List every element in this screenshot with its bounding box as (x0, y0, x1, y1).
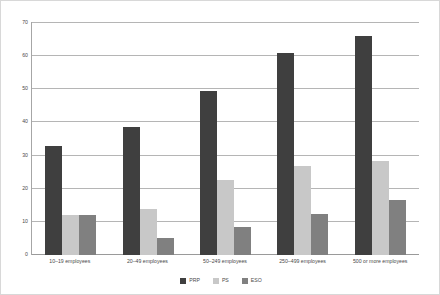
bar-ps (140, 209, 157, 255)
legend-label: ESO (251, 278, 262, 283)
bar-ps (62, 215, 79, 255)
y-axis-tick-label: 30 (22, 153, 28, 158)
x-axis-category-label: 50–249 employees (186, 259, 264, 264)
bar-prp (45, 146, 62, 255)
bar-ps (294, 166, 311, 255)
legend-item-eso[interactable]: ESO (242, 278, 262, 284)
bar-group (109, 23, 186, 255)
bar-prp (200, 91, 217, 255)
legend-item-ps[interactable]: PS (213, 278, 229, 284)
bar-group (264, 23, 341, 255)
legend-item-prp[interactable]: PRP (180, 278, 200, 284)
bar-group (342, 23, 419, 255)
bar-eso (79, 215, 96, 255)
bar-group (187, 23, 264, 255)
chart-figure: 010203040506070 10–19 employees20–49 emp… (0, 0, 440, 295)
bar-eso (389, 200, 406, 255)
x-axis-category-label: 500 or more employees (341, 259, 419, 264)
legend-swatch-icon (213, 278, 219, 284)
bar-prp (355, 36, 372, 255)
y-axis-tick-label: 10 (22, 219, 28, 224)
legend-swatch-icon (180, 278, 186, 284)
x-axis-category-label: 10–19 employees (31, 259, 109, 264)
legend-label: PRP (189, 278, 200, 283)
legend-swatch-icon (242, 278, 248, 284)
y-axis-tick-label: 70 (22, 20, 28, 25)
legend-label: PS (222, 278, 229, 283)
chart-legend: PRPPSESO (1, 278, 440, 284)
bar-group (32, 23, 109, 255)
bar-eso (157, 238, 174, 255)
y-axis-tick-label: 0 (25, 252, 28, 257)
bar-eso (234, 227, 251, 255)
category-axis: 10–19 employees20–49 employees50–249 emp… (31, 259, 419, 264)
y-axis-tick-label: 50 (22, 87, 28, 92)
y-axis-tick-label: 60 (22, 54, 28, 59)
plot-area: 010203040506070 (31, 22, 419, 255)
bar-eso (311, 214, 328, 255)
y-axis-tick-label: 20 (22, 186, 28, 191)
bars-layer (32, 23, 419, 255)
y-axis-tick-label: 40 (22, 120, 28, 125)
bar-prp (277, 53, 294, 255)
bar-ps (217, 180, 234, 255)
bar-prp (123, 127, 140, 255)
bar-ps (372, 161, 389, 255)
x-axis-category-label: 20–49 employees (109, 259, 187, 264)
x-axis-category-label: 250–499 employees (264, 259, 342, 264)
